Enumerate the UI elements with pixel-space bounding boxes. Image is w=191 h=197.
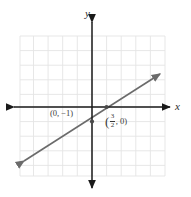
x-intercept-open-paren: ( <box>105 114 109 127</box>
x-axis-label: x <box>175 101 180 112</box>
coordinate-plane-svg <box>0 0 191 197</box>
point-marker-x-intercept <box>105 105 109 109</box>
x-intercept-close-paren: , 0) <box>116 117 127 126</box>
fraction-denominator: 2 <box>110 122 116 129</box>
graph-figure: y x (0, −1) ( 3 2 , 0) <box>0 0 191 197</box>
y-axis-label: y <box>85 8 90 19</box>
fraction-three-halves: 3 2 <box>110 113 116 129</box>
point-marker-y-intercept <box>90 120 94 124</box>
x-intercept-label: ( 3 2 , 0) <box>105 113 127 129</box>
fraction-numerator: 3 <box>110 113 116 120</box>
y-intercept-label: (0, −1) <box>50 109 73 118</box>
